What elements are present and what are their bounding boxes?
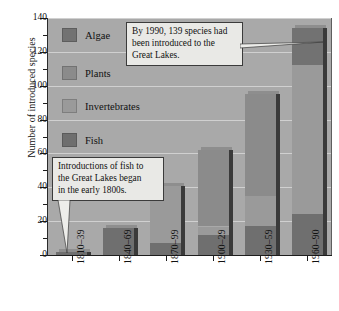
bar-highlight [201, 147, 232, 150]
x-tick [119, 256, 120, 261]
y-tick-minor [43, 103, 47, 104]
legend-swatch-plants [62, 66, 77, 80]
y-tick-label: 140 [21, 13, 47, 23]
callout-line: By 1990, 139 species had [132, 26, 238, 38]
y-tick-label: 0 [21, 250, 47, 260]
legend-item-invertebrates: Invertebrates [62, 99, 140, 113]
y-tick-minor [43, 69, 47, 70]
bar-segment-plants [245, 94, 276, 196]
bar-shadow [181, 186, 185, 255]
bar-shadow [134, 228, 138, 255]
y-tick-label: 40 [21, 182, 47, 192]
legend-item-plants: Plants [62, 66, 111, 80]
gridline [48, 18, 331, 19]
bar-shadow [87, 252, 91, 255]
gridline [48, 221, 331, 222]
gridline [48, 120, 331, 121]
bar-highlight [248, 91, 279, 94]
y-axis-title: Number of introduced species [26, 23, 37, 173]
x-tick [72, 256, 73, 261]
x-tick-label: 1840–69 [123, 229, 133, 264]
x-tick-label: 1810–39 [76, 229, 86, 264]
legend-label: Plants [85, 68, 111, 79]
x-tick-label: 1900–29 [217, 229, 227, 264]
gridline [48, 153, 331, 154]
x-tick-label: 1960–90 [311, 229, 321, 264]
y-tick-minor [43, 204, 47, 205]
legend-item-fish: Fish [62, 133, 103, 147]
legend-label: Fish [85, 135, 103, 146]
callout-line: the Great Lakes began [58, 173, 159, 185]
legend-swatch-fish [62, 133, 77, 147]
chart-figure: 020406080100120140 1810–391840–691870–99… [0, 0, 339, 311]
callout-line: Introductions of fish to [58, 161, 159, 173]
bar-highlight [106, 225, 137, 228]
y-tick-minor [43, 238, 47, 239]
bar-1960-90 [292, 28, 323, 255]
bar-shadow [323, 28, 327, 255]
x-tick [166, 256, 167, 261]
callout-line: in the early 1800s. [58, 185, 159, 197]
y-tick-minor [43, 35, 47, 36]
y-tick-minor [43, 137, 47, 138]
y-tick-minor [43, 170, 47, 171]
legend-label: Invertebrates [85, 101, 140, 112]
legend-label: Algae [85, 30, 110, 41]
x-tick [260, 256, 261, 261]
legend-swatch-invertebrates [62, 99, 77, 113]
y-tick-label: 20 [21, 216, 47, 226]
bar-segment-plants [198, 150, 229, 226]
callout-line: been introduced to the [132, 38, 238, 50]
legend-item-algae: Algae [62, 28, 110, 42]
x-tick-label: 1930–59 [264, 229, 274, 264]
x-tick [213, 256, 214, 261]
x-tick-label: 1870–99 [170, 229, 180, 264]
bar-segment-algae [292, 28, 323, 65]
gridline [48, 86, 331, 87]
x-axis-line [48, 255, 332, 256]
x-tick [307, 256, 308, 261]
bar-segment-invertebrates [292, 65, 323, 214]
callout-line: Great Lakes. [132, 50, 238, 62]
annotation-callout-1990: By 1990, 139 species had been introduced… [126, 22, 243, 66]
annotation-callout-fish: Introductions of fish to the Great Lakes… [52, 157, 164, 201]
bar-shadow [276, 94, 280, 255]
bar-segment-invertebrates [245, 196, 276, 226]
bar-highlight [295, 25, 326, 28]
bar-shadow [229, 150, 233, 255]
legend-swatch-algae [62, 28, 77, 42]
